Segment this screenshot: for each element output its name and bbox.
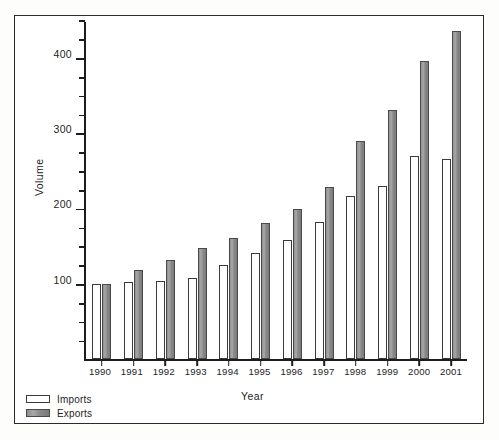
bar-exports-1997 xyxy=(325,187,334,359)
legend-label-exports: Exports xyxy=(57,408,92,419)
bar-group xyxy=(181,22,213,359)
bar-groups xyxy=(86,22,467,359)
bar-group xyxy=(404,22,436,359)
bar-imports-1997 xyxy=(315,222,324,359)
chart-legend: ImportsExports xyxy=(26,393,92,421)
y-tick-minor xyxy=(79,228,85,230)
bar-group xyxy=(245,22,277,359)
x-tick-label: 2000 xyxy=(403,366,435,377)
bar-exports-1995 xyxy=(261,223,270,359)
x-tick-label: 1991 xyxy=(116,366,148,377)
bar-exports-2001 xyxy=(452,31,461,359)
bar-imports-2001 xyxy=(442,159,451,359)
y-tick-minor xyxy=(79,341,85,343)
bar-exports-1998 xyxy=(356,141,365,359)
y-tick-minor xyxy=(79,96,85,98)
bar-group xyxy=(340,22,372,359)
bar-imports-1994 xyxy=(219,265,228,359)
bar-exports-1999 xyxy=(388,110,397,359)
y-tick-minor xyxy=(79,190,85,192)
x-tick-label: 1990 xyxy=(84,366,116,377)
bar-group xyxy=(435,22,467,359)
y-tick-minor xyxy=(79,265,85,267)
bar-exports-2000 xyxy=(420,61,429,359)
chart-figure: Volume 100200300400 19901991199219931994… xyxy=(0,0,499,440)
x-tick-label: 1996 xyxy=(276,366,308,377)
bar-imports-1990 xyxy=(92,284,101,359)
y-tick-minor xyxy=(79,77,85,79)
bar-group xyxy=(277,22,309,359)
x-tick-label: 1995 xyxy=(244,366,276,377)
bar-exports-1991 xyxy=(134,270,143,359)
bar-imports-1996 xyxy=(283,240,292,359)
x-tick-label: 1993 xyxy=(180,366,212,377)
y-tick-major xyxy=(76,58,85,60)
bar-exports-1994 xyxy=(229,238,238,359)
bar-group xyxy=(213,22,245,359)
y-tick-minor xyxy=(79,20,85,22)
bar-exports-1993 xyxy=(198,248,207,359)
plot-area: 100200300400 xyxy=(84,22,467,361)
x-tick-label: 1994 xyxy=(212,366,244,377)
x-axis-tick-labels: 1990199119921993199419951996199719981999… xyxy=(84,366,467,377)
bar-group xyxy=(308,22,340,359)
bar-imports-1998 xyxy=(346,196,355,359)
bar-imports-1992 xyxy=(156,281,165,359)
y-tick-minor xyxy=(79,303,85,305)
x-tick-label: 1999 xyxy=(371,366,403,377)
bar-imports-1995 xyxy=(251,253,260,359)
bar-imports-1993 xyxy=(188,278,197,359)
y-tick-minor xyxy=(79,246,85,248)
y-tick-label: 400 xyxy=(54,48,72,60)
bar-group xyxy=(150,22,182,359)
legend-label-imports: Imports xyxy=(57,394,92,405)
y-tick-minor xyxy=(79,322,85,324)
x-tick-label: 1998 xyxy=(339,366,371,377)
x-tick-label: 1992 xyxy=(148,366,180,377)
bar-imports-1991 xyxy=(124,282,133,359)
y-axis-title: Volume xyxy=(33,159,45,196)
legend-item-exports: Exports xyxy=(26,407,92,419)
y-tick-major xyxy=(76,133,85,135)
x-axis-line xyxy=(84,359,467,361)
legend-swatch-imports xyxy=(26,395,50,403)
y-tick-major xyxy=(76,284,85,286)
legend-swatch-exports xyxy=(26,409,50,417)
legend-item-imports: Imports xyxy=(26,393,92,405)
y-tick-major xyxy=(76,209,85,211)
y-tick-label: 300 xyxy=(54,123,72,135)
bar-group xyxy=(118,22,150,359)
y-tick-label: 200 xyxy=(54,198,72,210)
bar-imports-1999 xyxy=(378,186,387,359)
bar-imports-2000 xyxy=(410,156,419,359)
y-tick-label: 100 xyxy=(54,274,72,286)
bar-exports-1992 xyxy=(166,260,175,359)
bar-exports-1996 xyxy=(293,209,302,359)
y-tick-minor xyxy=(79,115,85,117)
x-tick-label: 2001 xyxy=(435,366,467,377)
y-tick-minor xyxy=(79,39,85,41)
x-tick-label: 1997 xyxy=(307,366,339,377)
y-tick-minor xyxy=(79,171,85,173)
y-tick-minor xyxy=(79,152,85,154)
bar-exports-1990 xyxy=(102,284,111,359)
bar-group xyxy=(372,22,404,359)
x-axis-title-text: Year xyxy=(241,390,264,402)
bar-group xyxy=(86,22,118,359)
